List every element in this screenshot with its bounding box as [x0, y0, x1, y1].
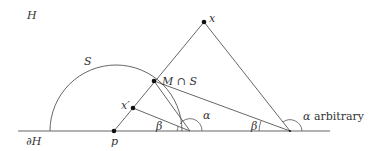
label-beta-right: β [251, 121, 257, 132]
label-alpha-arbitrary: α arbitrary [303, 111, 364, 122]
label-alpha: α [203, 110, 210, 121]
label-alpha-arbitrary-text: arbitrary [314, 110, 364, 123]
line-x-to-foot [204, 22, 290, 131]
label-beta-left: β [156, 121, 162, 132]
label-alpha-arbitrary-symbol: α [303, 110, 310, 123]
label-halfplane-h: H [27, 10, 37, 21]
line-m-to-foot [154, 81, 290, 131]
point-foot-right [289, 130, 291, 132]
label-boundary: ∂H [26, 136, 41, 147]
label-intersection: M ∩ S [162, 76, 197, 87]
angle-beta-left-arc [177, 126, 178, 131]
label-point-xprime: x′ [121, 100, 130, 111]
angle-beta-right-arc [259, 121, 261, 131]
label-point-x: x [209, 13, 215, 24]
label-sphere-s: S [84, 56, 92, 67]
point-p [112, 129, 117, 134]
point-m-cap-s [152, 79, 157, 84]
point-xprime [131, 106, 136, 111]
angle-alpha-arc [180, 119, 202, 131]
point-x [202, 20, 207, 25]
label-point-p: p [111, 136, 118, 147]
